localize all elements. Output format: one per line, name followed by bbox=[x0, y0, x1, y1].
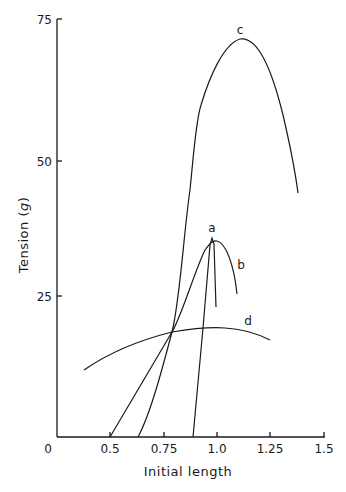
curve-b bbox=[110, 241, 237, 437]
x-ticks bbox=[110, 432, 324, 437]
y-tick-25: 25 bbox=[37, 290, 52, 304]
curve-c bbox=[138, 39, 298, 437]
label-c: c bbox=[237, 23, 244, 37]
y-tick-75: 75 bbox=[37, 13, 52, 27]
x-tick-1.25: 1.25 bbox=[257, 442, 284, 456]
x-tick-1.0: 1.0 bbox=[207, 442, 226, 456]
y-ticks bbox=[57, 19, 62, 296]
x-axis-title: Initial length bbox=[144, 464, 233, 479]
curve-d bbox=[84, 328, 270, 370]
label-d: d bbox=[244, 314, 252, 328]
y-axis-title: Tension (g) bbox=[16, 197, 31, 275]
x-tick-0.5: 0.5 bbox=[100, 442, 119, 456]
curve-a bbox=[193, 238, 216, 437]
label-a: a bbox=[208, 221, 215, 235]
y-tick-50: 50 bbox=[37, 155, 52, 169]
x-tick-0.75: 0.75 bbox=[151, 442, 178, 456]
x-tick-1.5: 1.5 bbox=[314, 442, 333, 456]
label-b: b bbox=[237, 258, 245, 272]
tension-length-chart: 75 50 25 0 0.5 0.75 1.0 1.25 1.5 Initial… bbox=[0, 0, 346, 492]
x-tick-0: 0 bbox=[44, 442, 52, 456]
